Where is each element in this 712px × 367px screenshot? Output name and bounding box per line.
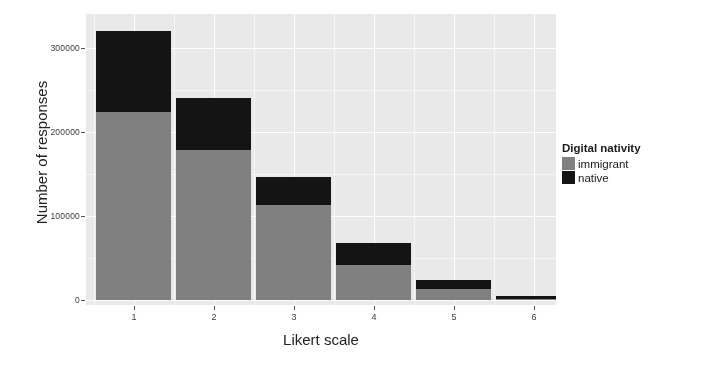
x-tick-label-5: 5 xyxy=(434,312,474,322)
x-tick-label-3: 3 xyxy=(274,312,314,322)
legend-title: Digital nativity xyxy=(562,142,708,154)
x-tick-mark-6 xyxy=(534,306,535,310)
x-tick-mark-1 xyxy=(134,306,135,310)
gridline-minor-x-3 xyxy=(334,14,335,305)
bar-segment-2-immigrant[interactable] xyxy=(176,150,251,300)
x-axis-title: Likert scale xyxy=(86,331,556,348)
y-tick-mark-0 xyxy=(81,300,85,301)
y-tick-label-300000: 300000 xyxy=(50,43,80,53)
bar-segment-5-native[interactable] xyxy=(416,280,491,289)
bar-segment-1-native[interactable] xyxy=(96,31,171,112)
gridline-minor-x-1 xyxy=(174,14,175,305)
gridline-major-x-5 xyxy=(454,14,455,305)
legend-label-immigrant: immigrant xyxy=(578,158,628,170)
x-tick-mark-2 xyxy=(214,306,215,310)
y-tick-mark-100000 xyxy=(81,216,85,217)
bar-segment-2-native[interactable] xyxy=(176,98,251,150)
bar-stack-3[interactable] xyxy=(256,177,331,300)
x-tick-mark-3 xyxy=(294,306,295,310)
y-tick-label-100000: 100000 xyxy=(50,211,80,221)
legend: Digital nativity immigrant native xyxy=(562,142,708,184)
legend-item-native[interactable]: native xyxy=(562,171,708,184)
legend-item-immigrant[interactable]: immigrant xyxy=(562,157,708,170)
x-tick-label-6: 6 xyxy=(514,312,554,322)
bar-segment-6-native[interactable] xyxy=(496,296,556,299)
bar-stack-5[interactable] xyxy=(416,280,491,300)
bar-segment-5-immigrant[interactable] xyxy=(416,289,491,300)
bar-stack-1[interactable] xyxy=(96,31,171,300)
bar-segment-4-immigrant[interactable] xyxy=(336,265,411,300)
y-tick-mark-200000 xyxy=(81,132,85,133)
x-tick-label-4: 4 xyxy=(354,312,394,322)
x-tick-label-1: 1 xyxy=(114,312,154,322)
bar-segment-3-native[interactable] xyxy=(256,177,331,205)
bar-segment-4-native[interactable] xyxy=(336,243,411,265)
y-tick-label-200000: 200000 xyxy=(50,127,80,137)
legend-swatch-native xyxy=(562,171,575,184)
legend-label-native: native xyxy=(578,172,609,184)
bar-stack-4[interactable] xyxy=(336,243,411,300)
bar-stack-2[interactable] xyxy=(176,98,251,300)
gridline-minor-x-0 xyxy=(94,14,95,305)
bar-segment-3-immigrant[interactable] xyxy=(256,205,331,300)
plot-panel xyxy=(86,14,556,305)
legend-swatch-immigrant xyxy=(562,157,575,170)
x-axis: 1 2 3 4 5 6 xyxy=(0,312,712,328)
bar-segment-6-immigrant[interactable] xyxy=(496,299,556,300)
gridline-major-y-0 xyxy=(86,300,556,301)
gridline-minor-x-2 xyxy=(254,14,255,305)
x-tick-mark-5 xyxy=(454,306,455,310)
x-tick-mark-4 xyxy=(374,306,375,310)
gridline-minor-x-5 xyxy=(494,14,495,305)
bar-stack-6[interactable] xyxy=(496,296,556,300)
y-tick-mark-300000 xyxy=(81,48,85,49)
y-axis-title: Number of responses xyxy=(33,38,50,268)
y-tick-label-0: 0 xyxy=(75,295,80,305)
gridline-minor-x-4 xyxy=(414,14,415,305)
x-tick-label-2: 2 xyxy=(194,312,234,322)
bar-segment-1-immigrant[interactable] xyxy=(96,112,171,300)
gridline-major-x-6 xyxy=(534,14,535,305)
figure-container: 300000 200000 100000 0 Number of respons… xyxy=(0,0,712,367)
